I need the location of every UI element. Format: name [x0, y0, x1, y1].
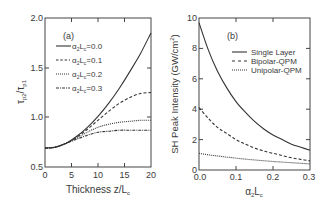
legend-label: Unipolar-QPM	[251, 66, 302, 75]
y-tick-label: 4	[192, 104, 197, 114]
panel-b-label: (b)	[227, 31, 238, 41]
panel-a-x-axis-label: Thickness z/Lc	[66, 184, 130, 196]
y-tick-label: 1.0	[30, 112, 43, 122]
x-tick-label: 5	[69, 170, 74, 180]
x-tick-label: 0.2	[267, 172, 280, 182]
x-tick-label: 0.3	[303, 172, 316, 182]
panel-a-y-axis-label: τp2/τp1	[15, 79, 27, 104]
series-line	[45, 130, 151, 148]
panel-a-label: (a)	[63, 31, 74, 41]
y-tick-label: 8	[192, 43, 197, 53]
panel-b-frame	[199, 18, 310, 170]
x-tick-label: 10	[93, 170, 103, 180]
panel-b-legend: Single Layer Bipolar-QPM Unipolar-QPM	[232, 48, 302, 75]
y-tick-label: 0.5	[30, 162, 43, 172]
y-tick-label: 2.0	[30, 13, 43, 23]
legend-label: Bipolar-QPM	[251, 57, 297, 66]
legend-entry: Unipolar-QPM	[232, 66, 302, 75]
y-tick-label: 2	[192, 135, 197, 145]
legend-label: α2Lc=0.1	[72, 56, 103, 66]
series-line	[45, 120, 151, 148]
legend-entry: α2Lc=0.3	[56, 84, 103, 94]
panel-b-x-ticks	[236, 18, 273, 170]
y-tick-label: 1.5	[30, 63, 43, 73]
series-line	[199, 153, 310, 164]
legend-entry: Bipolar-QPM	[232, 57, 297, 66]
legend-entry: Single Layer	[232, 48, 296, 57]
panel-b-y-tick-labels: 0 2 4 6 8 10	[187, 13, 197, 175]
panel-a-legend: α2Lc=0.0 α2Lc=0.1 α2Lc=0.2 α2Lc=0.3	[56, 42, 103, 94]
panel-b-curves	[199, 23, 310, 164]
legend-label: α2Lc=0.0	[72, 42, 103, 52]
legend-entry: α2Lc=0.1	[56, 56, 103, 66]
y-tick-label: 0	[192, 165, 197, 175]
figure: 0 5 10 15 20 0.5 1.0 1.5 2.0 Thickness z…	[0, 0, 329, 204]
legend-label: α2Lc=0.2	[72, 70, 103, 80]
legend-label: Single Layer	[251, 48, 296, 57]
x-tick-label: 0.1	[230, 172, 243, 182]
panel-a-x-tick-labels: 0 5 10 15 20	[42, 170, 156, 180]
panel-b-x-axis-label: α2Lc	[245, 186, 263, 198]
y-tick-label: 10	[187, 13, 197, 23]
x-tick-label: 0	[42, 170, 47, 180]
panel-b: 0.0 0.1 0.2 0.3 0 2 4 6 8 10 α2Lc SH Pea…	[169, 13, 315, 198]
panel-a-y-tick-labels: 0.5 1.0 1.5 2.0	[30, 13, 43, 172]
x-tick-label: 20	[146, 170, 156, 180]
x-tick-label: 15	[119, 170, 129, 180]
y-tick-label: 6	[192, 74, 197, 84]
panel-a: 0 5 10 15 20 0.5 1.0 1.5 2.0 Thickness z…	[15, 13, 156, 196]
legend-entry: α2Lc=0.0	[56, 42, 103, 52]
panel-b-x-tick-labels: 0.0 0.1 0.2 0.3	[194, 172, 316, 182]
panel-b-y-axis-label: SH Peak Intensity (GW/cm2)	[169, 34, 180, 154]
series-line	[199, 23, 310, 151]
legend-entry: α2Lc=0.2	[56, 70, 103, 80]
series-line	[199, 108, 310, 161]
series-line	[45, 93, 151, 149]
legend-label: α2Lc=0.3	[72, 84, 103, 94]
